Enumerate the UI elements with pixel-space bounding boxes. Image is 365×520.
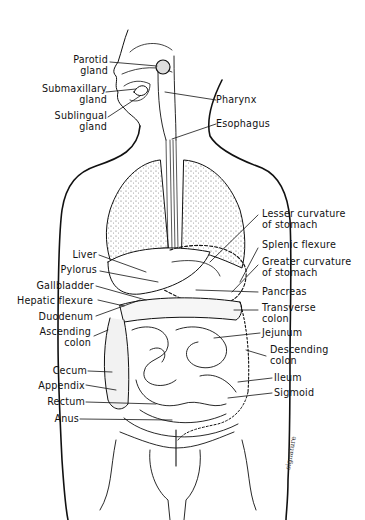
pharynx	[158, 72, 166, 140]
head-outline	[114, 30, 140, 126]
label-sublingual-gland: Sublingual gland	[55, 111, 107, 132]
transverse-colon	[120, 298, 242, 322]
artist-signature: signature	[284, 436, 298, 471]
label-liver: Liver	[72, 250, 97, 261]
pelvis	[100, 432, 256, 520]
label-lesser-curvature: Lesser curvature of stomach	[262, 209, 346, 230]
ascending-colon	[104, 318, 128, 409]
label-appendix: Appendix	[38, 381, 85, 392]
label-sigmoid: Sigmoid	[274, 388, 314, 399]
label-descending-colon: Descending colon	[270, 345, 328, 366]
label-gallbladder: Gallbladder	[36, 281, 94, 292]
label-pharynx: Pharynx	[216, 95, 257, 106]
esophagus	[166, 140, 178, 250]
label-ascending-colon: Ascending colon	[39, 327, 91, 348]
label-hepatic-flexure: Hepatic flexure	[17, 296, 93, 307]
submaxillary-gland	[134, 86, 148, 96]
label-greater-curvature: Greater curvature of stomach	[262, 257, 351, 278]
skull	[130, 43, 172, 52]
label-jejunum: Jejunum	[262, 328, 302, 339]
label-transverse-colon: Transverse colon	[262, 303, 316, 324]
label-rectum: Rectum	[47, 397, 85, 408]
label-anus: Anus	[54, 414, 79, 425]
small-intestine	[124, 327, 238, 437]
label-duodenum: Duodenum	[39, 312, 93, 323]
descending-colon	[240, 302, 249, 392]
label-cecum: Cecum	[53, 366, 87, 377]
label-ileum: Ileum	[274, 373, 302, 384]
sigmoid	[178, 392, 248, 440]
label-splenic-flexure: Splenic flexure	[262, 240, 336, 251]
label-submaxillary-gland: Submaxillary gland	[42, 84, 107, 105]
label-pancreas: Pancreas	[262, 287, 307, 298]
label-pylorus: Pylorus	[61, 265, 97, 276]
label-parotid-gland: Parotid gland	[73, 55, 108, 76]
liver	[108, 248, 210, 294]
label-esophagus: Esophagus	[216, 119, 270, 130]
